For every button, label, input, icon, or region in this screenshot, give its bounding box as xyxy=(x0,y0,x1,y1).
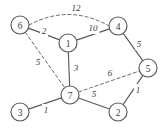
nodes-layer: 6145723 xyxy=(11,16,157,121)
edge-1-7 xyxy=(68,52,69,86)
edge-weight-3-7: 1 xyxy=(44,105,49,115)
edge-weight-6-7: 5 xyxy=(36,57,41,67)
node-label-4: 4 xyxy=(116,22,121,32)
edge-weight-7-5: 6 xyxy=(108,68,113,78)
node-label-3: 3 xyxy=(18,108,23,118)
graph-canvas: 122105536151 6145723 xyxy=(0,0,167,128)
edge-weight-7-2: 5 xyxy=(92,89,97,99)
node-label-1: 1 xyxy=(66,39,71,49)
edge-weight-6-1: 2 xyxy=(42,26,47,36)
node-label-2: 2 xyxy=(116,108,121,118)
edge-weight-1-4: 10 xyxy=(89,23,99,33)
node-label-6: 6 xyxy=(18,21,23,31)
edge-weight-2-5: 1 xyxy=(136,85,141,95)
node-label-7: 7 xyxy=(68,91,73,101)
graph-figure: 122105536151 6145723 xyxy=(0,0,167,128)
edge-weight-1-7: 3 xyxy=(73,63,79,73)
edge-weight-4-5: 5 xyxy=(137,39,142,49)
edge-weight-6-4: 12 xyxy=(72,3,82,13)
node-label-5: 5 xyxy=(146,64,151,74)
